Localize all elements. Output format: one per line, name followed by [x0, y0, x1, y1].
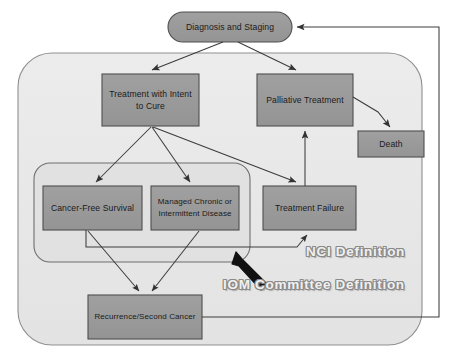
node-label-recurrence-second-cancer: Recurrence/Second Cancer [88, 295, 202, 339]
edge-palliative-treatment-to-death [353, 97, 390, 127]
node-label-diagnosis-and-staging: Diagnosis and Staging [168, 12, 292, 42]
edge-managed-chronic-to-recurrence [152, 231, 199, 291]
edge-treatment-to-cancer-free-survival [96, 127, 151, 182]
edges-layer [0, 0, 459, 355]
iom-committee-definition-label: IOM Committee Definition [223, 277, 405, 292]
node-label-treatment-failure: Treatment Failure [263, 186, 356, 230]
node-label-death: Death [358, 131, 424, 157]
node-label-treatment-with-intent-to-cure: Treatment with Intent to Cure [102, 74, 199, 126]
edge-treatment-to-treatment-failure [153, 127, 296, 182]
edge-treatment-to-managed-chronic [152, 127, 190, 182]
edge-diagnosis-to-treatment-intent-cure [152, 42, 223, 70]
diagram-canvas: Diagnosis and Staging Treatment with Int… [0, 0, 459, 355]
edge-cancer-free-survival-to-treatment-failure [86, 230, 307, 247]
edge-cancer-free-survival-to-recurrence [88, 231, 139, 291]
node-label-palliative-treatment: Palliative Treatment [257, 74, 353, 126]
node-label-managed-chronic-or-intermittent-disease: Managed Chronic or Intermittent Disease [151, 186, 239, 230]
node-label-cancer-free-survival: Cancer-Free Survival [43, 186, 142, 230]
edge-recurrence-to-diagnosis [202, 27, 439, 317]
edge-diagnosis-to-palliative-treatment [238, 42, 296, 70]
nci-definition-label: NCI Definition [306, 244, 405, 259]
